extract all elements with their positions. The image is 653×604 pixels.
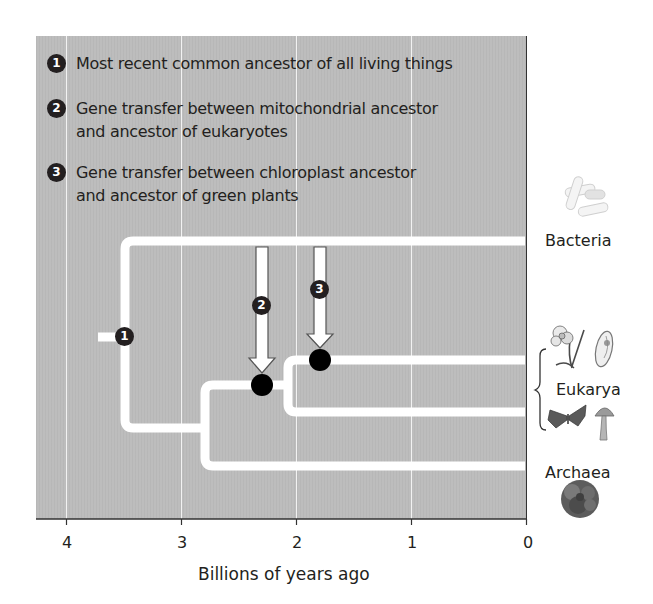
- tick-label-2: 2: [282, 533, 312, 552]
- tick-label-4: 4: [52, 533, 82, 552]
- label-bacteria: Bacteria: [545, 231, 612, 250]
- branch-archaea-eukarya: [205, 385, 525, 466]
- mushroom-icon: [595, 408, 614, 440]
- tree-badge-2: 2: [252, 296, 271, 315]
- x-axis-label: Billions of years ago: [198, 564, 370, 584]
- tick-label-0: 0: [513, 533, 543, 552]
- node-chloro-transfer: [309, 349, 331, 371]
- eukarya-brace: [535, 349, 546, 430]
- butterfly-icon: [548, 405, 586, 428]
- label-eukarya: Eukarya: [556, 380, 621, 399]
- label-archaea: Archaea: [545, 463, 611, 482]
- tree-badge-3: 3: [310, 280, 329, 299]
- tree-of-life-figure: 1 Most recent common ancestor of all liv…: [0, 0, 653, 604]
- protist-icon: [592, 330, 615, 369]
- archaea-icon: [561, 480, 599, 518]
- tick-label-3: 3: [167, 533, 197, 552]
- flower-icon: [551, 326, 584, 368]
- phylogenetic-tree: [0, 0, 653, 604]
- node-mito-transfer: [251, 374, 273, 396]
- tree-badge-1: 1: [115, 327, 134, 346]
- tick-label-1: 1: [397, 533, 427, 552]
- bacteria-icon: [565, 176, 609, 217]
